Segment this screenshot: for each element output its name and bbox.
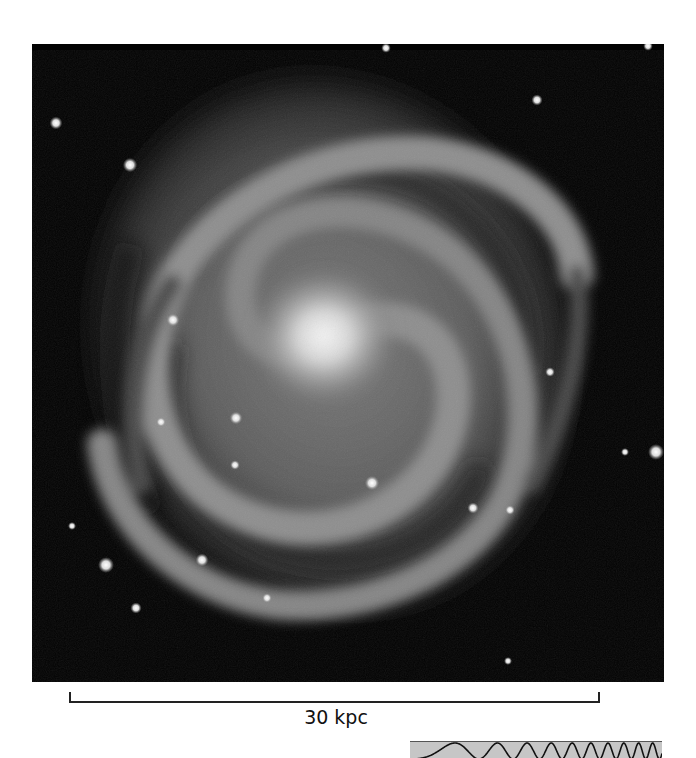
star xyxy=(505,505,515,515)
galaxy-image xyxy=(32,44,664,682)
film-grain xyxy=(72,104,612,644)
star xyxy=(68,522,76,530)
star xyxy=(467,502,478,513)
star xyxy=(365,476,379,490)
scale-bar xyxy=(69,692,600,703)
star xyxy=(648,444,664,460)
galaxy-svg xyxy=(32,44,664,682)
star xyxy=(130,602,141,613)
star xyxy=(545,367,555,377)
star xyxy=(156,417,166,427)
star xyxy=(381,44,391,53)
star xyxy=(167,314,180,327)
star xyxy=(196,554,209,567)
chirp-waveform-strip xyxy=(410,741,662,758)
star xyxy=(123,158,137,172)
star xyxy=(230,412,243,425)
chirp-waveform xyxy=(410,742,662,758)
star xyxy=(643,44,653,51)
star xyxy=(230,460,240,470)
star xyxy=(621,448,629,456)
star xyxy=(531,94,542,105)
star xyxy=(50,117,63,130)
star xyxy=(262,593,272,603)
star xyxy=(504,657,512,665)
scale-bar-label: 30 kpc xyxy=(0,706,672,728)
star xyxy=(98,557,114,573)
